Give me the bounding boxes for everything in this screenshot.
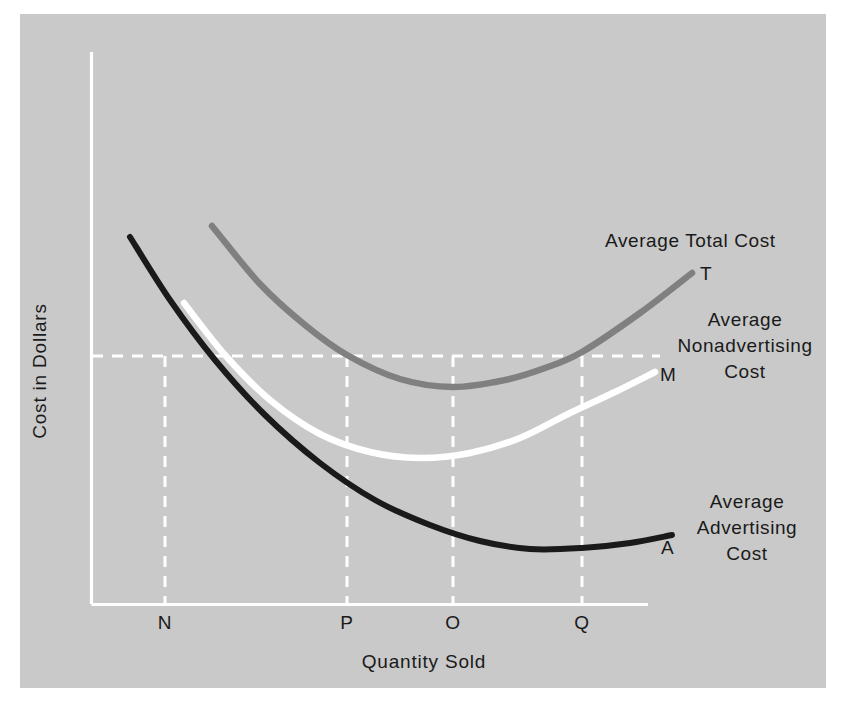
x-tick-label-q: Q <box>567 612 597 634</box>
point-label-m: M <box>660 364 676 386</box>
label-nonadv-line3: Cost <box>660 359 830 385</box>
label-adv-line3: Cost <box>672 541 822 567</box>
curve-average-advertising-cost <box>130 237 672 549</box>
reference-lines-group <box>92 356 660 604</box>
label-average-nonadvertising-cost: Average Nonadvertising Cost <box>660 307 830 385</box>
x-tick-label-n: N <box>150 612 180 634</box>
label-nonadv-line2: Nonadvertising <box>660 333 830 359</box>
x-axis-title: Quantity Sold <box>0 651 848 673</box>
label-average-total-cost: Average Total Cost <box>605 228 776 254</box>
page-top-margin <box>0 0 848 13</box>
x-tick-label-p: P <box>332 612 362 634</box>
point-label-t: T <box>700 263 712 285</box>
label-average-advertising-cost: Average Advertising Cost <box>672 489 822 567</box>
x-tick-label-o: O <box>438 612 468 634</box>
point-label-a: A <box>661 537 674 559</box>
label-adv-line1: Average <box>672 489 822 515</box>
y-axis-title: Cost in Dollars <box>29 291 51 451</box>
label-nonadv-line1: Average <box>660 307 830 333</box>
label-adv-line2: Advertising <box>672 515 822 541</box>
figure-root: N P O Q Quantity Sold Cost in Dollars Av… <box>0 0 848 719</box>
